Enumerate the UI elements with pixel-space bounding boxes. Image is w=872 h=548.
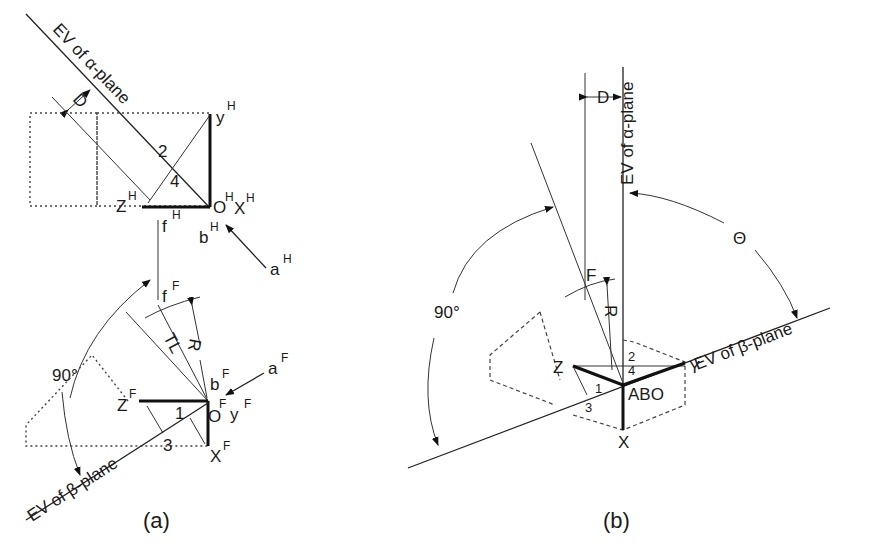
label-f-b: F bbox=[586, 266, 596, 285]
label-z-h-sup: H bbox=[128, 189, 137, 203]
alpha-plane-label: EV of α-plane bbox=[49, 20, 134, 108]
theta-label: Θ bbox=[733, 229, 746, 248]
figure-b: EV of α-plane D 90° Θ EV of β-plane F R … bbox=[408, 67, 830, 533]
label-f-f-sup: F bbox=[172, 279, 179, 293]
radius-label: R bbox=[184, 337, 205, 352]
number-4: 4 bbox=[170, 172, 179, 191]
label-a-f: a bbox=[268, 359, 278, 378]
radius-line-b bbox=[607, 285, 612, 370]
label-o-f-sup: F bbox=[219, 397, 226, 411]
label-x-f-sup: F bbox=[223, 439, 230, 453]
number-1: 1 bbox=[175, 404, 184, 423]
caption-b: (b) bbox=[603, 508, 630, 533]
number-2: 2 bbox=[158, 142, 167, 161]
label-y-f-sup: F bbox=[244, 397, 251, 411]
radius-label-b: R bbox=[601, 305, 620, 317]
angle-arc-upper-b bbox=[453, 207, 553, 293]
line-of-sight-arrow-h bbox=[226, 225, 266, 268]
label-b-h-sup: H bbox=[210, 220, 219, 234]
distance-label: D bbox=[69, 90, 91, 112]
label-a-f-sup: F bbox=[281, 351, 288, 365]
perp-line-1 bbox=[147, 406, 163, 433]
label-o-h-sup: H bbox=[225, 190, 234, 204]
caption-a: (a) bbox=[143, 508, 170, 533]
label-z-f-sup: F bbox=[129, 387, 136, 401]
theta-arc-lower bbox=[755, 250, 797, 318]
number-4-b: 4 bbox=[628, 363, 635, 378]
label-x-h: X bbox=[234, 199, 245, 218]
label-z-b: Z bbox=[553, 358, 563, 377]
label-abo: ABO bbox=[628, 385, 664, 404]
label-z-f: Z bbox=[117, 396, 127, 415]
figure-a: EV of α-plane D 2 4 y H Z H O H X H f H … bbox=[24, 14, 292, 533]
dotted-box-mid bbox=[97, 113, 210, 206]
angle-arc-upper bbox=[70, 280, 150, 398]
label-b-f-sup: F bbox=[222, 367, 229, 381]
slanted-line-b bbox=[531, 143, 623, 383]
number-1-b: 1 bbox=[595, 381, 602, 396]
line-of-sight-arrow-f bbox=[226, 373, 264, 395]
true-length-line bbox=[158, 305, 208, 401]
beta-plane-label: EV of β-plane bbox=[24, 454, 121, 526]
angle-arc-lower bbox=[62, 392, 80, 475]
distance-label-b: D bbox=[597, 88, 609, 107]
label-x-f: X bbox=[210, 447, 221, 466]
dashed-polygon-left bbox=[490, 312, 555, 405]
number-2-b: 2 bbox=[628, 349, 635, 364]
label-y-b: Y bbox=[689, 358, 700, 377]
label-f-f: f bbox=[162, 287, 167, 306]
angle-90-label-b: 90° bbox=[434, 303, 460, 322]
label-z-h: Z bbox=[116, 197, 126, 216]
diagram-canvas: EV of α-plane D 2 4 y H Z H O H X H f H … bbox=[0, 0, 872, 548]
label-f-h-sup: H bbox=[172, 208, 181, 222]
label-y-f: y bbox=[230, 405, 239, 424]
alpha-plane-edge-line bbox=[26, 14, 210, 208]
beta-plane-label-b: EV of β-plane bbox=[692, 319, 795, 374]
label-f-h: f bbox=[162, 217, 167, 236]
label-y-h-sup: H bbox=[227, 99, 236, 113]
label-x-h-sup: H bbox=[246, 191, 255, 205]
dotted-box-left bbox=[30, 113, 97, 206]
number-3-b: 3 bbox=[585, 400, 592, 415]
theta-arc-upper bbox=[630, 193, 724, 223]
number-3: 3 bbox=[163, 436, 172, 455]
angle-90-label: 90° bbox=[52, 366, 78, 385]
label-y-h: y bbox=[216, 108, 225, 127]
radius-arc bbox=[145, 297, 200, 318]
label-a-h: a bbox=[270, 260, 280, 279]
label-b-f: b bbox=[210, 375, 219, 394]
angle-arc-lower-b bbox=[428, 338, 438, 445]
label-x-b: X bbox=[618, 433, 629, 452]
label-b-h: b bbox=[199, 228, 208, 247]
label-a-h-sup: H bbox=[283, 252, 292, 266]
perp-line-2 bbox=[190, 418, 205, 444]
